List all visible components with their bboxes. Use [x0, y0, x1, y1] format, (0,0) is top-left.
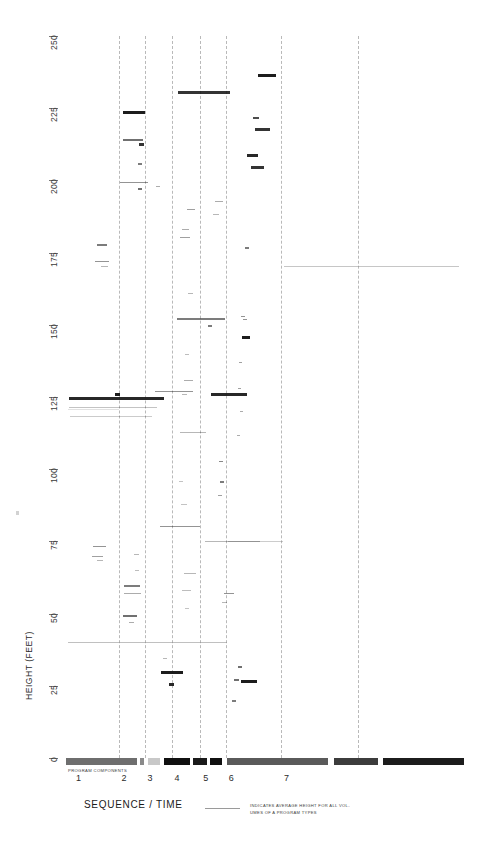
height-tick-mark [213, 214, 219, 215]
legend-line-2: UMES OF A PROGRAM TYPES [250, 810, 400, 817]
height-tick-mark [123, 111, 145, 114]
legend-line-1: INDICATES AVERAGE HEIGHT FOR ALL VOL- [250, 803, 400, 810]
y-tick-label: 200 [49, 179, 59, 194]
height-tick-mark [224, 593, 234, 594]
height-tick-mark [241, 316, 245, 317]
height-tick-mark [92, 556, 103, 557]
stray-artifact [16, 511, 19, 515]
x-axis-tick-label: 6 [229, 773, 234, 783]
y-tick-label: 0 [49, 757, 59, 762]
height-tick-mark [245, 247, 249, 249]
program-component-segment [334, 758, 378, 765]
height-tick-mark [179, 481, 183, 482]
height-tick-mark [97, 244, 107, 246]
y-tick-label: 250 [49, 35, 59, 50]
height-sequence-chart: HEIGHT (FEET) 25022520017515012510075502… [0, 0, 479, 847]
y-tick-label: 100 [49, 468, 59, 483]
legend-text: INDICATES AVERAGE HEIGHT FOR ALL VOL- UM… [250, 803, 400, 817]
x-axis-tick-label: 3 [148, 773, 153, 783]
x-axis-tick-label: 5 [203, 773, 208, 783]
category-gridline [281, 36, 282, 758]
height-tick-mark [219, 461, 223, 462]
y-tick-label: 50 [49, 613, 59, 623]
height-tick-mark [184, 380, 193, 381]
x-axis-tick-label: 7 [284, 773, 289, 783]
program-component-segment [383, 758, 464, 765]
height-tick-mark [215, 201, 223, 202]
height-tick-mark [169, 683, 174, 686]
y-axis-tick: 25 [0, 686, 66, 687]
plot-area [66, 36, 464, 758]
height-tick-mark [243, 319, 247, 320]
height-tick-mark [124, 593, 141, 594]
y-tick-label: 125 [49, 396, 59, 411]
y-axis-tick: 175 [0, 253, 66, 254]
average-height-line [68, 409, 119, 410]
height-tick-mark [180, 432, 206, 433]
category-gridline [358, 36, 359, 758]
program-component-segment [210, 758, 222, 765]
height-tick-mark [138, 163, 142, 165]
height-tick-mark [139, 143, 144, 146]
y-axis-tick: 50 [0, 614, 66, 615]
height-tick-mark [242, 336, 250, 339]
category-gridline [172, 36, 173, 758]
y-axis-tick: 0 [0, 758, 66, 759]
height-tick-mark [184, 573, 196, 574]
y-axis-tick: 75 [0, 541, 66, 542]
program-component-segment [148, 758, 160, 765]
x-axis-tick-label: 1 [76, 773, 81, 783]
height-tick-mark [232, 700, 236, 702]
height-tick-mark [237, 435, 240, 436]
height-tick-mark [182, 229, 189, 230]
program-components-strip [66, 758, 464, 765]
y-axis-tick: 125 [0, 397, 66, 398]
height-tick-mark [124, 585, 140, 587]
y-tick-label: 75 [49, 540, 59, 550]
height-tick-mark [182, 590, 191, 591]
y-axis-tick: 100 [0, 469, 66, 470]
y-tick-label: 225 [49, 107, 59, 122]
height-tick-mark [69, 397, 164, 400]
height-tick-mark [95, 261, 109, 262]
height-tick-mark [255, 128, 270, 131]
height-tick-mark [182, 394, 187, 395]
height-tick-mark [211, 393, 247, 396]
height-tick-mark [205, 541, 260, 542]
height-tick-mark [69, 407, 157, 408]
height-tick-mark [220, 481, 224, 483]
height-tick-mark [123, 139, 143, 141]
height-tick-mark [253, 117, 259, 119]
y-axis-tick: 250 [0, 36, 66, 37]
height-tick-mark [238, 388, 241, 389]
height-tick-mark [240, 411, 243, 412]
program-component-segment [164, 758, 191, 765]
height-tick-mark [160, 526, 200, 527]
program-component-segment [66, 758, 137, 765]
y-tick-label: 175 [49, 252, 59, 267]
height-tick-mark [239, 362, 242, 363]
height-tick-mark [185, 354, 189, 355]
height-tick-mark [185, 608, 189, 609]
height-tick-mark [161, 671, 183, 674]
x-axis-tick-label: 2 [122, 773, 127, 783]
height-tick-mark [156, 186, 160, 187]
y-axis-tick: 150 [0, 325, 66, 326]
height-tick-mark [135, 570, 139, 571]
category-gridline [226, 36, 227, 758]
height-tick-mark [187, 209, 195, 210]
height-tick-mark [163, 658, 167, 659]
category-gridline [200, 36, 201, 758]
height-tick-mark [241, 680, 257, 683]
x-axis-tick-label: 4 [175, 773, 180, 783]
height-tick-mark [115, 393, 120, 396]
height-tick-mark [251, 166, 264, 169]
average-height-line [284, 266, 458, 267]
average-height-line [68, 642, 227, 643]
height-tick-mark [234, 679, 239, 681]
y-axis-title: HEIGHT (FEET) [24, 631, 34, 700]
height-tick-mark [70, 416, 152, 417]
height-tick-mark [238, 666, 242, 668]
height-tick-mark [180, 237, 190, 238]
y-axis-tick: 225 [0, 108, 66, 109]
